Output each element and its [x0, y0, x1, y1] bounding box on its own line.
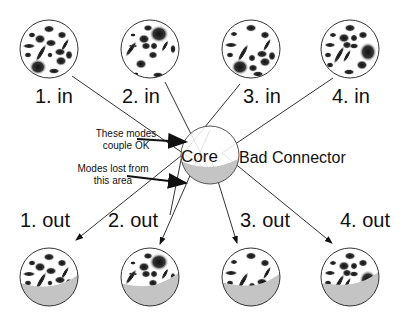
output-circle-3 [220, 248, 282, 310]
input-circle-1 [20, 20, 78, 78]
annotation-couple-ok: These modes couple OK [86, 128, 166, 152]
output-circle-4 [319, 248, 381, 310]
output-circle-1 [18, 248, 80, 310]
output-label-2: 2. out [108, 210, 158, 230]
annotation-modes-lost: Modes lost from this area [68, 163, 158, 187]
input-label-4: 4. in [332, 86, 370, 106]
output-label-4: 4. out [340, 210, 390, 230]
input-label-1: 1. in [35, 86, 73, 106]
input-label-2: 2. in [122, 86, 160, 106]
annotation-line: Modes lost from [68, 163, 158, 175]
input-circle-3 [222, 20, 280, 78]
annotation-line: couple OK [86, 140, 166, 152]
annotation-line: this area [68, 175, 158, 187]
input-circle-2 [121, 20, 179, 78]
input-circle-4 [321, 20, 379, 78]
input-label-3: 3. in [243, 86, 281, 106]
annotation-line: These modes [86, 128, 166, 140]
output-label-1: 1. out [20, 210, 70, 230]
output-label-3: 3. out [240, 210, 290, 230]
bad-connector-label: Bad Connector [239, 150, 346, 166]
core-label: Core [181, 148, 218, 165]
output-circle-2 [119, 248, 181, 310]
